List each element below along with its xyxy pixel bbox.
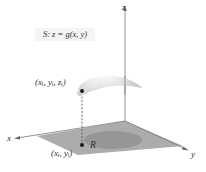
region-label: R (89, 140, 96, 150)
plane-point-label: (xᵢ, yᵢ) (51, 148, 72, 158)
surface-equation-label: S: z = g(x, y) (35, 28, 95, 41)
plane-point (80, 143, 83, 146)
x-axis-label: x (6, 133, 11, 143)
x-axis-arrow-icon (14, 136, 20, 140)
z-axis-label: z (121, 2, 126, 12)
surface-point-label: (xᵢ, yᵢ, zᵢ) (35, 77, 66, 87)
surface-diagram: x y z (xᵢ, yᵢ, zᵢ) (xᵢ, yᵢ) R S: z = g(x… (0, 0, 206, 172)
surface-point (80, 89, 84, 93)
y-axis-arrow-icon (182, 147, 189, 151)
y-axis-label: y (190, 149, 195, 159)
